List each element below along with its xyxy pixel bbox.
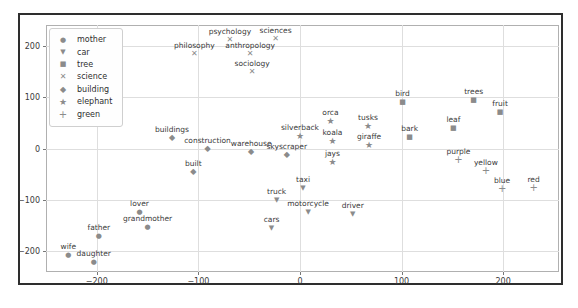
point-label: giraffe	[357, 133, 381, 141]
point-label: sciences	[260, 26, 292, 34]
legend-item-science: ✕science	[58, 71, 112, 83]
legend-label: tree	[77, 61, 93, 69]
x-tick-label: −100	[187, 277, 209, 286]
y-tick-label: 100	[25, 93, 40, 102]
point-label: built	[185, 160, 202, 168]
science-point-marker: ✕	[249, 68, 256, 76]
point-label: cars	[264, 215, 280, 223]
legend-label: science	[77, 73, 107, 81]
figure-frame: ●mother▼car■tree✕science◆building★elepha…	[18, 13, 563, 285]
legend-label: car	[77, 49, 90, 57]
green-point-marker: +	[498, 184, 506, 194]
elephant-point-marker: ★	[364, 121, 372, 130]
building-point-marker: ◆	[248, 148, 254, 156]
star-icon: ★	[58, 98, 68, 107]
point-label: tusks	[358, 113, 378, 121]
point-label: bark	[401, 124, 418, 132]
legend-item-elephant: ★elephant	[58, 96, 112, 108]
legend-label: building	[77, 86, 109, 94]
legend-item-building: ◆building	[58, 84, 112, 96]
point-label: driver	[342, 201, 364, 209]
plus-icon: +	[58, 110, 68, 120]
point-label: buildings	[155, 125, 189, 133]
triangle-down-icon: ▼	[58, 49, 68, 56]
scatter-figure: ●mother▼car■tree✕science◆building★elepha…	[0, 0, 578, 308]
y-tick-label: −200	[18, 247, 40, 256]
point-label: trees	[464, 87, 483, 95]
mother-point-marker: ●	[91, 259, 97, 266]
tree-point-marker: ■	[406, 133, 413, 140]
legend-label: green	[77, 111, 100, 119]
point-label: skyscraper	[266, 143, 307, 151]
green-point-marker: +	[529, 183, 537, 193]
car-point-marker: ▼	[305, 208, 310, 215]
grid-line-horizontal	[46, 251, 559, 252]
y-tick-mark	[43, 200, 46, 201]
building-point-marker: ◆	[169, 134, 175, 142]
tree-point-marker: ■	[470, 96, 477, 103]
legend-label: mother	[77, 36, 106, 44]
green-point-marker: +	[482, 166, 490, 176]
point-label: father	[87, 224, 110, 232]
x-tick-label: −200	[86, 277, 108, 286]
building-point-marker: ◆	[190, 168, 196, 176]
x-tick-label: 100	[394, 277, 409, 286]
legend-item-car: ▼car	[58, 46, 112, 58]
car-point-marker: ▼	[269, 224, 274, 231]
building-point-marker: ◆	[284, 151, 290, 159]
x-tick-mark	[503, 272, 504, 275]
elephant-point-marker: ★	[328, 136, 336, 145]
x-tick-label: 200	[495, 277, 510, 286]
circle-icon: ●	[58, 37, 68, 44]
x-tick-label: 0	[297, 277, 302, 286]
science-point-marker: ✕	[191, 50, 198, 58]
point-label: lover	[130, 199, 149, 207]
point-label: red	[527, 176, 539, 184]
point-label: orca	[322, 108, 338, 116]
y-tick-label: −100	[18, 195, 40, 204]
point-label: daughter	[77, 250, 111, 258]
x-icon: ✕	[58, 73, 68, 81]
tree-point-marker: ■	[450, 125, 457, 132]
green-point-marker: +	[454, 155, 462, 165]
elephant-point-marker: ★	[365, 141, 373, 150]
tree-point-marker: ■	[399, 98, 406, 105]
science-point-marker: ✕	[247, 50, 254, 58]
point-label: fruit	[492, 100, 508, 108]
point-label: taxi	[296, 176, 310, 184]
y-tick-mark	[43, 149, 46, 150]
square-icon: ■	[58, 61, 68, 68]
point-label: grandmother	[123, 215, 172, 223]
y-tick-mark	[43, 97, 46, 98]
elephant-point-marker: ★	[296, 131, 304, 140]
point-label: leaf	[446, 116, 460, 124]
point-label: philosophy	[174, 42, 215, 50]
mother-point-marker: ●	[145, 224, 151, 231]
building-point-marker: ◆	[204, 145, 210, 153]
legend: ●mother▼car■tree✕science◆building★elepha…	[49, 28, 123, 127]
legend-item-tree: ■tree	[58, 59, 112, 71]
point-label: motorcycle	[287, 199, 329, 207]
legend-label: elephant	[77, 98, 112, 106]
y-tick-mark	[43, 251, 46, 252]
y-tick-label: 0	[35, 144, 40, 153]
mother-point-marker: ●	[65, 251, 71, 258]
point-label: purple	[446, 148, 470, 156]
car-point-marker: ▼	[350, 210, 355, 217]
legend-item-mother: ●mother	[58, 34, 112, 46]
point-label: wife	[61, 242, 76, 250]
point-label: construction	[184, 136, 231, 144]
point-label: bird	[395, 89, 410, 97]
point-label: truck	[267, 187, 286, 195]
x-tick-mark	[402, 272, 403, 275]
y-tick-mark	[43, 46, 46, 47]
point-label: sociology	[235, 59, 270, 67]
point-label: silverback	[281, 123, 319, 131]
legend-item-green: +green	[58, 108, 112, 120]
point-label: psychology	[209, 28, 251, 36]
point-label: jays	[325, 150, 340, 158]
diamond-icon: ◆	[58, 86, 68, 94]
x-tick-mark	[198, 272, 199, 275]
car-point-marker: ▼	[274, 196, 279, 203]
tree-point-marker: ■	[497, 109, 504, 116]
